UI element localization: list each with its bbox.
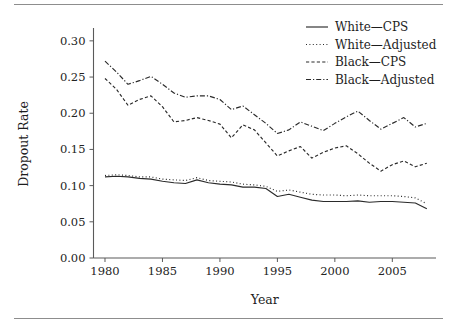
y-tick-label: 0.10	[60, 179, 86, 193]
chart-legend: White—CPSWhite—AdjustedBlack—CPSBlack—Ad…	[306, 20, 437, 87]
x-tick-label: 2000	[320, 264, 349, 278]
series-line-white-cps	[105, 176, 427, 209]
x-tick-label: 2005	[378, 264, 407, 278]
x-tick-label: 1980	[90, 264, 119, 278]
legend-label: White—Adjusted	[335, 38, 437, 52]
y-tick-label: 0.15	[60, 142, 86, 156]
y-tick-label: 0.25	[60, 70, 86, 84]
y-tick-label: 0.30	[60, 34, 86, 48]
y-tick-label: 0.05	[60, 215, 86, 229]
chart-plot-area: 0.000.050.100.150.200.250.30 19801985199…	[0, 0, 451, 333]
legend-label: White—CPS	[335, 20, 408, 34]
y-axis-ticks: 0.000.050.100.150.200.250.30	[60, 34, 94, 265]
x-tick-label: 1990	[205, 264, 234, 278]
legend-label: Black—CPS	[335, 55, 406, 69]
x-axis-ticks: 198019851990199520002005	[90, 258, 407, 278]
x-axis-title: Year	[250, 292, 279, 307]
x-tick-label: 1995	[263, 264, 292, 278]
figure-container: 0.000.050.100.150.200.250.30 19801985199…	[0, 0, 451, 333]
y-tick-label: 0.00	[60, 251, 86, 265]
y-tick-label: 0.20	[60, 106, 86, 120]
dropout-rate-line-chart: 0.000.050.100.150.200.250.30 19801985199…	[0, 0, 451, 333]
x-tick-label: 1985	[148, 264, 177, 278]
series-line-black-cps	[105, 79, 427, 172]
y-axis-title: Dropout Rate	[16, 101, 31, 187]
legend-label: Black—Adjusted	[335, 73, 435, 87]
